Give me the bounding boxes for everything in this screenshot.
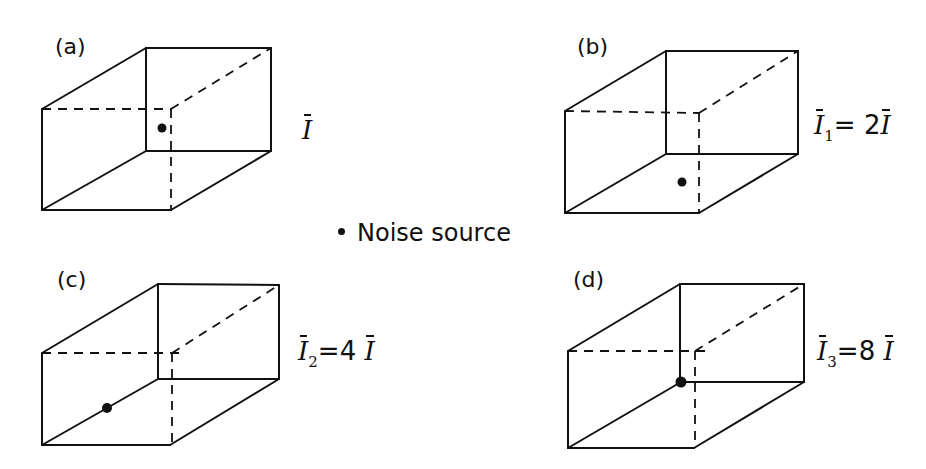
intensity-label-b: I1= 2I [814, 112, 891, 144]
intensity-symbol: I [302, 117, 312, 143]
legend-label: Noise source [357, 219, 511, 247]
intensity-symbol: I [814, 112, 824, 138]
intensity-factor: 2 [864, 110, 881, 140]
panel-label-c: (c) [57, 269, 86, 291]
reference-intensity-symbol: I [880, 112, 890, 138]
intensity-factor: 8 [859, 336, 876, 366]
intensity-label-d: I3=8 I [817, 338, 894, 370]
intensity-symbol: I [298, 338, 308, 364]
noise-source-dot-c [102, 403, 112, 413]
room-box-d [568, 284, 804, 448]
noise-source-dot-d [676, 377, 687, 388]
room-box-a [42, 48, 271, 210]
room-box-c [42, 284, 279, 445]
room-box-b [565, 51, 798, 213]
reference-intensity-symbol: I [883, 338, 893, 364]
equals-sign: = [318, 336, 340, 366]
intensity-label-a: I [302, 117, 312, 143]
panel-label-d: (d) [573, 269, 604, 291]
intensity-factor: 4 [340, 336, 357, 366]
intensity-symbol: I [817, 338, 827, 364]
intensity-subscript: 2 [308, 353, 318, 371]
intensity-subscript: 1 [824, 127, 834, 145]
legend: Noise source [338, 219, 511, 247]
intensity-subscript: 3 [827, 353, 837, 371]
panel-label-a: (a) [55, 36, 86, 58]
intensity-label-c: I2=4 I [298, 338, 375, 370]
panel-label-b: (b) [577, 36, 608, 58]
reference-intensity-symbol: I [364, 338, 374, 364]
noise-source-marker-icon [338, 228, 345, 235]
equals-sign: = [837, 336, 859, 366]
equals-sign: = [834, 110, 856, 140]
noise-source-dot-b [678, 178, 687, 187]
noise-source-dot-a [158, 124, 167, 133]
